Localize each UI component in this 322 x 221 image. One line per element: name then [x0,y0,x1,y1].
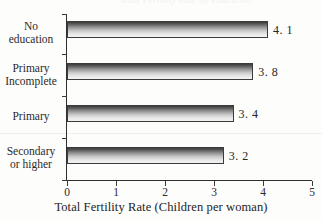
x-axis-tick-label: 3 [204,186,224,198]
bar-secondary-or-higher [67,147,224,164]
x-axis-tick-label: 1 [106,186,126,198]
category-label-line: or higher [0,158,62,171]
category-label-primary-incomplete: Primary Incomplete [0,62,62,88]
bar-primary-incomplete [67,63,253,80]
x-axis-title: Total Fertility Rate (Children per woman… [0,200,322,215]
x-axis-line [66,180,312,181]
category-label-line: Incomplete [0,75,62,88]
bar-no-education [67,21,268,38]
category-label-line: education [0,33,62,46]
category-label-secondary-or-higher: Secondary or higher [0,145,62,171]
x-axis-tick-label: 5 [302,186,322,198]
category-label-line: Secondary [0,145,62,158]
bar-primary [67,105,234,122]
category-label-line: Primary [0,62,62,75]
category-label-line: Primary [0,110,62,123]
bar-value-label: 3. 2 [229,149,249,164]
plot-area: 4. 1 3. 8 3. 4 3. 2 [67,14,312,180]
category-label-line: No [0,20,62,33]
category-label-no-education: No education [0,20,62,46]
x-axis-tick-label: 0 [57,186,77,198]
fertility-rate-bar-chart: Total Fertility Rate by Education No edu… [0,0,322,221]
x-axis-tick-label: 2 [155,186,175,198]
x-axis-tick-label: 4 [253,186,273,198]
bar-value-label: 4. 1 [273,23,293,38]
category-label-primary: Primary [0,110,62,123]
clipped-title-artifact: Total Fertility Rate by Education [0,0,322,9]
bar-value-label: 3. 4 [239,107,259,122]
clipped-title-text: Total Fertility Rate by Education [120,0,252,5]
bar-value-label: 3. 8 [258,65,278,80]
